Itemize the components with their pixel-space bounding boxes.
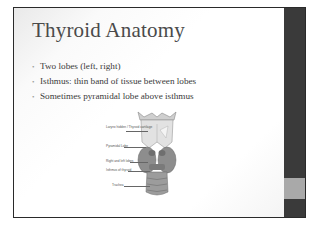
figure-label-trachea: Trachea [112,184,124,188]
slide-title: Thyroid Anatomy [32,18,185,43]
bullet-list: •Two lobes (left, right) •Isthmus: thin … [32,59,196,104]
figure-label-larynx: Larynx hidden / Thyroid cartilage [106,126,152,130]
leader-line [124,186,150,187]
bullet-icon: • [32,75,40,89]
sidebar-accent-block [284,178,305,199]
leader-line [128,171,150,172]
leader-line [124,147,146,148]
thyroid-anatomy-figure: Larynx hidden / Thyroid cartilage Pyrami… [106,108,196,200]
bullet-item: •Two lobes (left, right) [32,59,196,74]
slide: Thyroid Anatomy •Two lobes (left, right)… [13,7,306,218]
slide-sidebar-bar [284,8,305,217]
bullet-item: •Sometimes pyramidal lobe above isthmus [32,89,196,104]
leader-line [126,131,148,132]
leader-line [130,162,148,163]
bullet-item: •Isthmus: thin band of tissue between lo… [32,74,196,89]
bullet-icon: • [32,60,40,74]
bullet-icon: • [32,90,40,104]
thyroid-illustration-icon [132,108,182,198]
